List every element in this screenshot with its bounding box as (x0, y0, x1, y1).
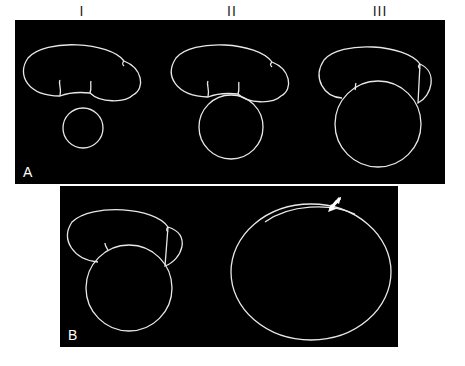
lobed-shape-a1 (23, 45, 140, 101)
arrow-pointer-icon (328, 197, 341, 212)
lobed-shape-a2 (171, 45, 288, 102)
diagram-drawing (0, 0, 465, 366)
circle-a1 (63, 108, 103, 148)
circle-a2 (199, 95, 263, 159)
large-ellipse (231, 204, 391, 340)
lobed-shape-b1 (68, 210, 183, 266)
circle-a3 (335, 81, 421, 167)
circle-b1 (86, 245, 172, 331)
lobed-shape-a3 (319, 47, 431, 103)
